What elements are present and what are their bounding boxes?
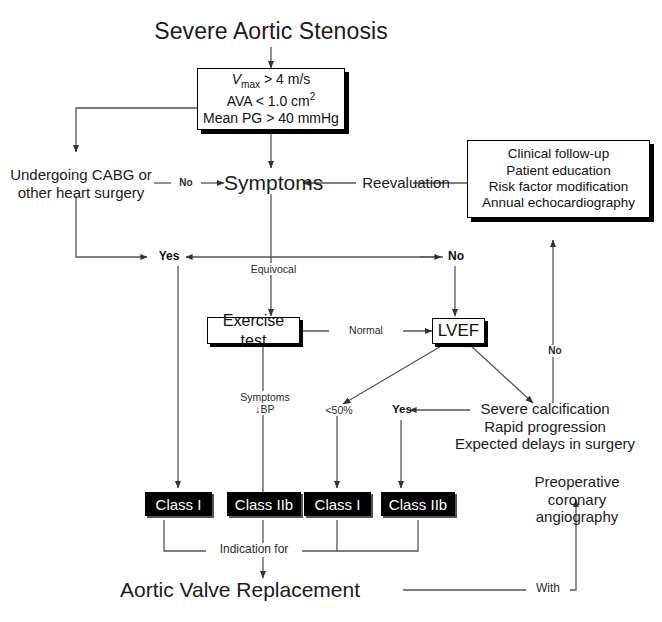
edge-label-with: With [526,582,570,596]
exercise-test-box: Exercise test [207,317,300,344]
edge-label-lt50: <50% [310,404,368,416]
edge-label-no-cabg: No [171,177,201,189]
node-symptoms: Symptoms [224,171,306,196]
node-undergoing-cabg: Undergoing CABG or other heart surgery [8,166,154,201]
vmax-subscript: max [241,79,260,90]
vmax-symbol: V [232,71,241,87]
criteria-box: Vmax > 4 m/s AVA < 1.0 cm2 Mean PG > 40 … [197,68,345,130]
edge-label-normal: Normal [329,324,403,336]
edge-label-no-vertical: No [538,345,572,357]
page-title: Severe Aortic Stenosis [128,18,414,45]
class-box-2: Class IIb [227,492,301,516]
junction-no-label: No [443,249,469,263]
node-aortic-valve-replacement: Aortic Valve Replacement [120,578,404,603]
ava-value: AVA < 1.0 cm [227,93,310,109]
class-box-3: Class I [304,492,371,516]
edge-label-symptoms-bp: Symptoms ↓BP [214,391,316,415]
criteria-line-vmax: Vmax > 4 m/s [232,71,311,91]
vmax-value: > 4 m/s [260,71,310,87]
class-box-1: Class I [145,492,212,516]
followup-box: Clinical follow-up Patient education Ris… [467,140,650,218]
class-box-4: Class IIb [381,492,455,516]
node-reevaluation: Reevaluation [356,174,456,192]
junction-yes-label: Yes [152,249,186,263]
node-preoperative-angiography: Preoperative coronary angiography [507,473,647,526]
ava-exponent: 2 [310,91,316,102]
lvef-box: LVEF [432,318,485,344]
node-risk-factors: Severe calcification Rapid progression E… [428,400,662,453]
edge-label-indication-for: Indication for [206,543,302,557]
edge-label-equivocal: Equivocal [219,263,328,275]
junction-yes-risk-label: Yes [386,403,418,417]
criteria-line-ava: AVA < 1.0 cm2 [227,91,316,110]
criteria-line-meanpg: Mean PG > 40 mmHg [203,110,339,127]
flowchart-canvas: LVEF --> [0,0,662,622]
